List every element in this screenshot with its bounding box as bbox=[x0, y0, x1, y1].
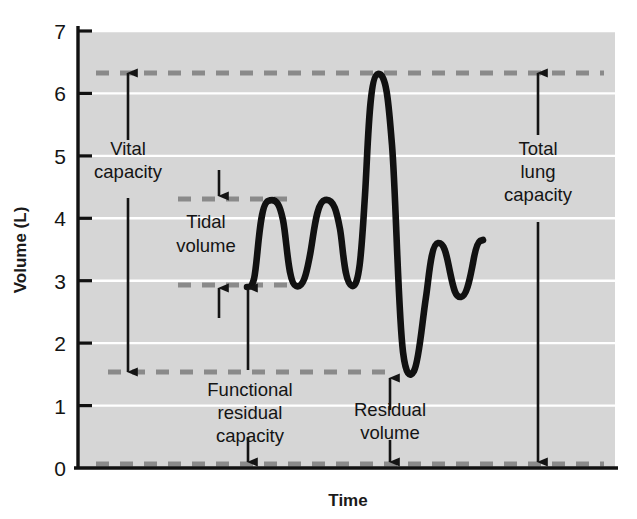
frc-label-line1: Functional bbox=[207, 379, 292, 400]
total-lung-capacity-label-line3: capacity bbox=[504, 184, 573, 205]
frc-label-line2: residual bbox=[218, 402, 283, 423]
y-tick-label-5: 5 bbox=[54, 145, 66, 168]
y-tick-labels: 7 6 5 4 3 2 1 0 bbox=[54, 20, 66, 480]
y-tick-label-2: 2 bbox=[54, 332, 66, 355]
frc-label-line3: capacity bbox=[216, 425, 285, 446]
tidal-volume-label-line1: Tidal bbox=[186, 211, 225, 232]
spirogram-svg: Vital capacity Tidal volume Functional r… bbox=[0, 0, 637, 519]
tidal-volume-label-line2: volume bbox=[176, 235, 236, 256]
y-tick-label-3: 3 bbox=[54, 270, 66, 293]
vital-capacity-label-line1: Vital bbox=[110, 138, 146, 159]
residual-volume-label-line2: volume bbox=[360, 422, 420, 443]
vital-capacity-label-line2: capacity bbox=[94, 161, 163, 182]
y-tick-label-7: 7 bbox=[54, 20, 66, 43]
y-tick-label-6: 6 bbox=[54, 82, 66, 105]
y-tick-label-1: 1 bbox=[54, 395, 66, 418]
y-tick-label-0: 0 bbox=[54, 457, 66, 480]
y-axis-title: Volume (L) bbox=[11, 207, 30, 294]
plot-area-background bbox=[78, 31, 615, 468]
x-axis-title: Time bbox=[328, 491, 367, 510]
lung-volumes-spirogram-figure: Vital capacity Tidal volume Functional r… bbox=[0, 0, 637, 519]
total-lung-capacity-label-line2: lung bbox=[521, 161, 556, 182]
y-tick-label-4: 4 bbox=[54, 207, 66, 230]
residual-volume-label-line1: Residual bbox=[354, 399, 426, 420]
total-lung-capacity-label-line1: Total bbox=[518, 138, 557, 159]
